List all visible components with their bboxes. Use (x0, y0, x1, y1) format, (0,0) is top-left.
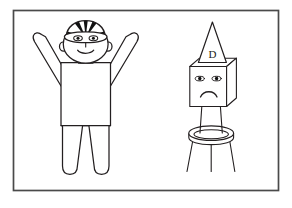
dunce-cap-letter: D (209, 48, 217, 60)
stool-seat-top (189, 126, 234, 141)
left-pupil (77, 37, 80, 40)
box-right-face (227, 58, 237, 106)
illustration-canvas: D (0, 0, 292, 208)
picture-frame (14, 11, 279, 191)
drawing-surface: D (0, 0, 292, 208)
right-pupil (92, 37, 95, 40)
box-front-face (190, 67, 227, 107)
cap-brim (64, 32, 107, 43)
frame-border (14, 11, 279, 191)
box-left-pupil (198, 77, 201, 81)
box-right-pupil (215, 77, 218, 81)
torso (61, 63, 111, 126)
